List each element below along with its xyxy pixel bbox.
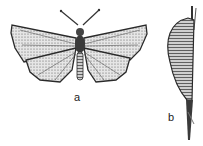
butterfly [11, 9, 147, 82]
illustration [0, 0, 203, 146]
panel-label-b: b [168, 112, 174, 123]
panel-label-a: a [74, 92, 80, 103]
